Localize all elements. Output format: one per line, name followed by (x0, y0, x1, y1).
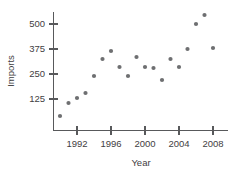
data-point (168, 57, 172, 61)
x-tick-label: 2000 (134, 138, 155, 149)
y-tick-label: 250 (29, 68, 45, 79)
x-tick-label: 2004 (168, 138, 189, 149)
data-point (202, 13, 206, 17)
data-point (143, 65, 147, 69)
x-tick-label: 1996 (100, 138, 121, 149)
data-point (160, 78, 164, 82)
data-point (151, 66, 155, 70)
y-tick-label: 375 (29, 43, 45, 54)
data-point (126, 74, 130, 78)
scatter-plot-figure: 125250375500 19921996200020042008 Year I… (0, 0, 247, 173)
data-point (211, 46, 215, 50)
data-point (92, 74, 96, 78)
x-axis: 19921996200020042008 (54, 126, 229, 149)
data-point-series (58, 13, 215, 118)
x-axis-title: Year (131, 157, 150, 168)
x-tick-label: 1992 (66, 138, 87, 149)
x-tick-label: 2008 (202, 138, 223, 149)
data-point (194, 22, 198, 26)
data-point (58, 114, 62, 118)
y-axis-tick-labels: 125250375500 (29, 18, 45, 104)
x-axis-tick-labels: 19921996200020042008 (66, 138, 223, 149)
data-point (75, 96, 79, 100)
y-axis-title: Imports (5, 55, 16, 87)
y-tick-label: 125 (29, 93, 45, 104)
data-point (185, 47, 189, 51)
data-point (134, 55, 138, 59)
data-point (177, 65, 181, 69)
plot-canvas: 125250375500 19921996200020042008 Year I… (0, 0, 247, 173)
y-tick-label: 500 (29, 18, 45, 29)
data-point (83, 91, 87, 95)
data-point (117, 65, 121, 69)
data-point (100, 57, 104, 61)
data-point (66, 101, 70, 105)
data-point (109, 49, 113, 53)
y-axis: 125250375500 (29, 12, 58, 131)
